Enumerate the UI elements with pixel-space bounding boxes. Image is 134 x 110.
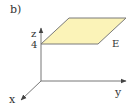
z-axis-label: z (31, 28, 36, 39)
x-axis (21, 81, 41, 100)
z-tick-label: 4 (31, 39, 37, 50)
x-axis-label: x (9, 93, 16, 106)
y-axis-label: y (114, 86, 122, 99)
coordinate-diagram: b) z 4 E y x (0, 0, 134, 110)
plane-label: E (112, 38, 119, 49)
subfigure-label: b) (10, 3, 21, 16)
